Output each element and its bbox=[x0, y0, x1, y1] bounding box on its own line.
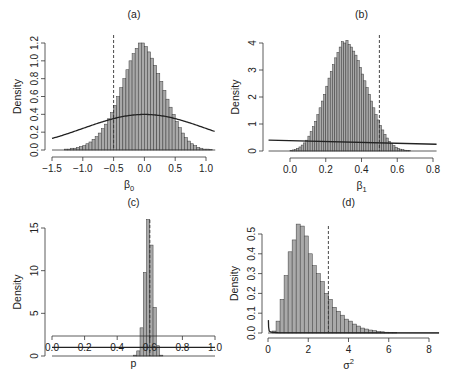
histogram-bar bbox=[316, 274, 320, 333]
histogram-bar bbox=[330, 71, 332, 151]
y-axis: 051015Density bbox=[11, 222, 45, 359]
x-tick-label: 1.0 bbox=[199, 163, 213, 174]
x-tick-label: 0.2 bbox=[319, 164, 333, 175]
histogram-bar bbox=[288, 252, 292, 333]
histogram-bar bbox=[95, 137, 98, 150]
histogram-bar bbox=[321, 101, 323, 151]
y-tick-label: 4 bbox=[247, 40, 258, 46]
histogram-bar bbox=[135, 48, 138, 150]
y-axis: 0.00.10.20.30.40.5Density bbox=[228, 227, 262, 340]
histogram-bar bbox=[339, 47, 341, 151]
histogram-bar bbox=[397, 148, 399, 151]
y-axis-title: Density bbox=[228, 265, 240, 301]
histogram-bar bbox=[336, 311, 340, 333]
x-tick-label: 0.2 bbox=[78, 342, 92, 353]
panel-c: (c)051015Density0.00.20.40.60.81.0p bbox=[11, 196, 222, 369]
histogram-bar bbox=[332, 65, 334, 151]
histogram-bar bbox=[166, 99, 169, 150]
x-tick-label: 0.5 bbox=[168, 163, 182, 174]
panel-title: (c) bbox=[127, 196, 139, 208]
histogram-bar bbox=[147, 52, 150, 150]
histogram-bar bbox=[344, 319, 348, 333]
y-tick-label: 0 bbox=[29, 353, 40, 359]
x-tick-label: −1.5 bbox=[42, 163, 62, 174]
histogram-bar bbox=[335, 58, 337, 151]
x-tick-label: 2 bbox=[305, 344, 311, 355]
histogram-bar bbox=[132, 54, 135, 150]
histogram-bar bbox=[123, 79, 126, 150]
histogram-bar bbox=[107, 119, 110, 150]
y-tick-label: 3 bbox=[247, 67, 258, 73]
figure: (a)0.00.20.40.60.81.01.2Density−1.5−1.0−… bbox=[0, 0, 455, 379]
histogram-bar bbox=[151, 58, 154, 150]
y-tick-label: 0.0 bbox=[29, 143, 40, 157]
histogram-bar bbox=[117, 97, 120, 151]
histogram-bar bbox=[370, 101, 372, 151]
chart-canvas: (a)0.00.20.40.60.81.01.2Density−1.5−1.0−… bbox=[0, 0, 455, 379]
histogram-bar bbox=[301, 145, 303, 151]
histogram-bar bbox=[332, 307, 336, 333]
histogram-bar bbox=[346, 40, 348, 151]
y-tick-label: 1.0 bbox=[29, 53, 40, 67]
histogram-bar bbox=[147, 219, 150, 356]
histogram-bar bbox=[337, 52, 339, 151]
x-axis-title: p bbox=[131, 357, 137, 369]
histogram-bar bbox=[306, 140, 308, 151]
histogram-bar bbox=[366, 88, 368, 151]
histogram-bar bbox=[373, 108, 375, 151]
panel-b: (b)01234Density0.00.20.40.60.8β1 bbox=[229, 8, 440, 194]
panel-title: (d) bbox=[342, 196, 355, 208]
histogram-bar bbox=[395, 147, 397, 151]
histogram-bar bbox=[304, 236, 308, 333]
histogram-bar bbox=[157, 73, 160, 150]
histogram-bar bbox=[350, 47, 352, 151]
histogram-bar bbox=[150, 245, 153, 356]
x-axis-title: β0 bbox=[124, 178, 134, 193]
x-tick-label: 1.0 bbox=[208, 342, 222, 353]
histogram-bar bbox=[101, 129, 104, 150]
y-tick-label: 1.2 bbox=[29, 36, 40, 50]
histogram-bar bbox=[308, 136, 310, 151]
histogram-bar bbox=[391, 144, 393, 151]
x-axis: 0.00.20.40.60.81.0p bbox=[45, 336, 222, 369]
histogram bbox=[64, 43, 212, 150]
histogram-bar bbox=[126, 70, 129, 150]
y-tick-label: 15 bbox=[29, 222, 40, 234]
y-tick-label: 0.8 bbox=[29, 71, 40, 85]
histogram-bar bbox=[197, 147, 200, 150]
histogram-bar bbox=[353, 324, 357, 333]
panel-title: (a) bbox=[128, 8, 141, 20]
histogram-bar bbox=[83, 146, 86, 150]
x-tick-label: 8 bbox=[426, 344, 432, 355]
histogram-bar bbox=[315, 121, 317, 151]
y-tick-label: 5 bbox=[29, 310, 40, 316]
histogram-bar bbox=[319, 108, 321, 151]
x-tick-label: 4 bbox=[346, 344, 352, 355]
x-tick-label: 0.6 bbox=[390, 164, 404, 175]
histogram-bar bbox=[362, 74, 364, 151]
histogram-bar bbox=[188, 141, 191, 150]
x-tick-label: 0.8 bbox=[426, 164, 440, 175]
histogram-bar bbox=[77, 147, 80, 150]
histogram-bar bbox=[375, 115, 377, 151]
y-tick-label: 0.2 bbox=[246, 286, 257, 300]
x-axis-title: β1 bbox=[356, 179, 366, 194]
histogram-bar bbox=[114, 105, 117, 150]
y-tick-label: 0.5 bbox=[246, 227, 257, 241]
x-tick-label: 0.4 bbox=[355, 164, 369, 175]
histogram-bar bbox=[141, 43, 144, 150]
histogram-bar bbox=[137, 351, 140, 356]
histogram-bar bbox=[357, 326, 361, 333]
y-axis-title: Density bbox=[11, 274, 23, 310]
histogram-bar bbox=[163, 90, 166, 150]
histogram-bar bbox=[328, 78, 330, 151]
histogram-bar bbox=[169, 107, 172, 150]
y-tick-label: 10 bbox=[29, 265, 40, 277]
histogram-bar bbox=[359, 67, 361, 151]
histogram-bar bbox=[308, 254, 312, 333]
histogram-bar bbox=[104, 124, 107, 150]
histogram-bar bbox=[191, 144, 194, 150]
y-tick-label: 0 bbox=[247, 148, 258, 154]
histogram-bar bbox=[312, 127, 314, 151]
y-tick-label: 0.2 bbox=[29, 125, 40, 139]
